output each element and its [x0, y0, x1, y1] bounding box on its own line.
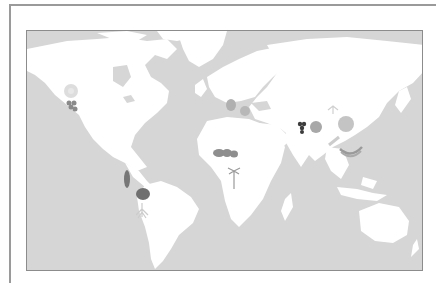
banana-icon — [339, 143, 363, 159]
palm-icon — [227, 165, 241, 189]
tomato-icon — [135, 187, 151, 201]
fig-icon — [239, 105, 251, 117]
orange-icon — [337, 115, 355, 133]
outer-border-top — [9, 4, 436, 6]
leaf-icon — [327, 105, 339, 115]
plant-icon — [133, 203, 151, 219]
pepper-icon — [122, 167, 132, 189]
beans-icon — [213, 147, 239, 159]
world-map — [26, 30, 423, 271]
apple-icon — [309, 119, 323, 133]
flower-icon — [63, 83, 79, 99]
grapes-icon — [297, 121, 307, 135]
outer-border-left — [9, 4, 11, 283]
grapes-icon — [65, 99, 79, 113]
pear-icon — [225, 97, 237, 111]
